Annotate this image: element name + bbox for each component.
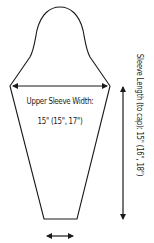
upper-sleeve-width-label: Upper Sleeve Width: [11, 96, 109, 106]
sleeve-length-label: Sleeve Length (to cap): 15" (16", 18") [135, 54, 145, 176]
sleeve-diagram: Upper Sleeve Width: 15" (15", 17") Sleev… [0, 0, 154, 243]
upper-sleeve-width-value: 15" (15", 17") [11, 116, 109, 126]
sleeve-outline [10, 7, 110, 219]
